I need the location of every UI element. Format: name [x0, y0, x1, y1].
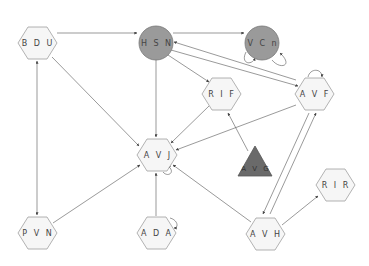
- node-hsn[interactable]: H S N: [139, 26, 173, 60]
- node-rif[interactable]: R I F: [202, 78, 241, 110]
- node-label: B D U: [22, 39, 55, 48]
- self-loop-avf: [308, 70, 322, 77]
- node-rir[interactable]: R I R: [316, 169, 355, 201]
- edge-bdu-avj: [52, 57, 139, 146]
- node-label: A V J: [144, 151, 172, 160]
- node-avh[interactable]: A V H: [246, 218, 285, 250]
- node-vcn[interactable]: V C n: [245, 26, 279, 60]
- edge-avh-rir: [282, 196, 318, 225]
- node-avf[interactable]: A V F: [295, 78, 334, 110]
- graph-canvas: B D U H S N V C n R I F A V F A V J A V …: [0, 0, 369, 266]
- node-avj[interactable]: A V J: [137, 139, 177, 171]
- node-ada[interactable]: A D A: [137, 217, 176, 249]
- edge-rif-avj: [171, 106, 209, 143]
- node-label: A V H: [250, 230, 282, 239]
- node-label: A V G: [241, 165, 270, 173]
- edge-avg-rif: [228, 113, 248, 151]
- edge-avf-avj: [176, 105, 296, 150]
- node-label: H S N: [141, 39, 173, 48]
- node-label: R I F: [208, 90, 236, 99]
- node-label: R I R: [322, 181, 351, 190]
- node-label: V C n: [247, 39, 278, 48]
- edge-hsn-avf: [171, 50, 298, 86]
- edge-avf-avh: [263, 113, 309, 214]
- node-label: A V F: [300, 90, 331, 99]
- edge-pvn-avj: [53, 165, 140, 223]
- node-label: A D A: [141, 229, 173, 238]
- edges: [37, 33, 318, 225]
- node-label: P V N: [22, 229, 53, 238]
- node-pvn[interactable]: P V N: [18, 217, 57, 249]
- node-avg[interactable]: A V G: [238, 146, 272, 176]
- node-bdu[interactable]: B D U: [18, 27, 57, 59]
- edge-avh-avf: [270, 113, 316, 214]
